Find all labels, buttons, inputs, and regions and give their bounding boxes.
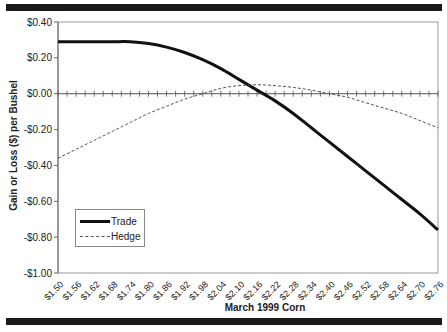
legend-item-hedge: Hedge [80, 229, 140, 243]
x-tick-label: $1.98 [187, 279, 210, 302]
y-tick-label: -$0.80 [24, 232, 53, 243]
y-tick-label: -$0.20 [24, 124, 53, 135]
legend-label-hedge: Hedge [111, 231, 140, 242]
y-tick-label: $0.20 [27, 52, 52, 63]
y-tick-label: $0.40 [27, 17, 52, 28]
line-chart: $0.40$0.20$0.00-$0.20-$0.40-$0.60-$0.80-… [0, 0, 447, 332]
x-tick-label: $2.16 [241, 279, 264, 302]
y-tick-label: -$0.60 [24, 196, 53, 207]
x-tick-label: $2.34 [296, 279, 319, 302]
x-tick-label: $2.04 [205, 279, 228, 302]
y-tick-label: $0.00 [27, 88, 52, 99]
x-tick-label: $2.10 [223, 279, 246, 302]
x-tick-label: $2.22 [260, 279, 283, 302]
y-tick-label: -$1.00 [24, 268, 53, 279]
x-tick-label: $1.56 [61, 279, 84, 302]
legend: Trade Hedge [75, 209, 145, 247]
trade-line-swatch-icon [80, 220, 110, 223]
x-tick-label: $2.40 [314, 279, 337, 302]
x-axis-title: March 1999 Corn [200, 302, 330, 313]
x-tick-label: $1.80 [133, 279, 156, 302]
x-tick-label: $2.76 [422, 279, 445, 302]
y-axis-title: Gain or Loss ($) per Bushel [8, 61, 19, 231]
x-tick-label: $1.68 [97, 279, 120, 302]
x-tick-label: $1.62 [79, 279, 102, 302]
x-tick-label: $2.70 [404, 279, 427, 302]
y-tick-label: -$0.40 [24, 160, 53, 171]
hedge-line-swatch-icon [80, 236, 110, 237]
bottom-rule [6, 318, 442, 325]
x-tick-label: $2.64 [386, 279, 409, 302]
legend-label-trade: Trade [111, 216, 137, 227]
x-tick-label: $2.28 [278, 279, 301, 302]
x-tick-label: $1.86 [151, 279, 174, 302]
x-tick-label: $2.58 [368, 279, 391, 302]
x-tick-label: $1.92 [169, 279, 192, 302]
legend-item-trade: Trade [80, 214, 137, 228]
x-tick-label: $1.50 [42, 279, 65, 302]
x-tick-label: $2.52 [350, 279, 373, 302]
x-tick-label: $2.46 [332, 279, 355, 302]
x-tick-label: $1.74 [115, 279, 138, 302]
